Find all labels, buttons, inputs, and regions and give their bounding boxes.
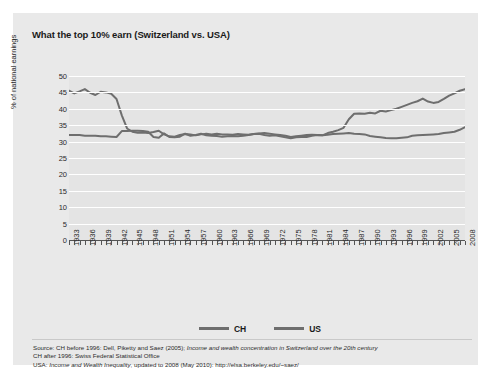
x-tick-mark bbox=[212, 241, 213, 245]
y-tick-label: 25 bbox=[43, 154, 67, 163]
legend-item-ch: CH bbox=[199, 319, 246, 337]
x-tick-mark bbox=[243, 241, 244, 245]
y-tick-label: 30 bbox=[43, 138, 67, 147]
x-tick-mark bbox=[106, 241, 107, 245]
x-tick-mark bbox=[180, 241, 181, 245]
x-tick-mark bbox=[465, 241, 466, 245]
x-tick-mark bbox=[201, 241, 202, 245]
x-tick-mark bbox=[259, 241, 260, 245]
x-tick-mark bbox=[317, 241, 318, 245]
gridline bbox=[69, 109, 465, 110]
x-tick-mark bbox=[381, 241, 382, 245]
chart-card: What the top 10% earn (Switzerland vs. U… bbox=[13, 13, 478, 365]
gridline bbox=[69, 174, 465, 175]
x-tick-mark bbox=[69, 241, 70, 245]
x-tick-mark bbox=[249, 241, 250, 245]
x-tick-mark bbox=[275, 241, 276, 245]
source-line-1-plain: Source: CH before 1996: Dell, Piketty an… bbox=[33, 344, 187, 351]
x-tick-mark bbox=[349, 241, 350, 245]
x-tick-mark bbox=[423, 241, 424, 245]
x-tick-mark bbox=[190, 241, 191, 245]
x-tick-mark bbox=[396, 241, 397, 245]
y-tick-label: 0 bbox=[43, 236, 67, 245]
gridline bbox=[69, 142, 465, 143]
source-notes: Source: CH before 1996: Dell, Piketty an… bbox=[33, 344, 483, 369]
x-tick-mark bbox=[264, 241, 265, 245]
gridline bbox=[69, 224, 465, 225]
x-tick-mark bbox=[370, 241, 371, 245]
gridline bbox=[69, 191, 465, 192]
x-tick-mark bbox=[217, 241, 218, 245]
x-tick-mark bbox=[402, 241, 403, 245]
x-tick-mark bbox=[127, 241, 128, 245]
y-tick-label: 45 bbox=[43, 88, 67, 97]
source-line-1-italic: Income and wealth concentration in Switz… bbox=[187, 344, 378, 351]
x-tick-mark bbox=[148, 241, 149, 245]
y-tick-label: 15 bbox=[43, 187, 67, 196]
x-tick-mark bbox=[354, 241, 355, 245]
x-tick-mark bbox=[291, 241, 292, 245]
x-tick-mark bbox=[270, 241, 271, 245]
x-tick-mark bbox=[175, 241, 176, 245]
page-title: What the top 10% earn (Switzerland vs. U… bbox=[32, 29, 230, 40]
x-tick-mark bbox=[132, 241, 133, 245]
source-line-3-plain: USA: bbox=[33, 361, 49, 368]
x-tick-mark bbox=[111, 241, 112, 245]
x-tick-mark bbox=[375, 241, 376, 245]
legend-item-us: US bbox=[274, 319, 321, 337]
x-tick-mark bbox=[206, 241, 207, 245]
x-tick-mark bbox=[117, 241, 118, 245]
x-axis-tick-labels: 1933193619391942194519481951195419571960… bbox=[13, 246, 494, 288]
x-tick-mark bbox=[122, 241, 123, 245]
x-tick-mark bbox=[80, 241, 81, 245]
x-tick-mark bbox=[439, 241, 440, 245]
x-tick-mark bbox=[285, 241, 286, 245]
legend-swatch-ch bbox=[199, 327, 229, 330]
legend-label-ch: CH bbox=[234, 324, 246, 334]
y-axis-tick-labels: 50454035302520151050 bbox=[43, 71, 67, 245]
x-tick-mark bbox=[449, 241, 450, 245]
x-tick-mark bbox=[391, 241, 392, 245]
x-tick-mark bbox=[412, 241, 413, 245]
chart-legend: CHUS bbox=[13, 318, 494, 337]
y-tick-label: 10 bbox=[43, 203, 67, 212]
x-tick-mark bbox=[280, 241, 281, 245]
gridline bbox=[69, 158, 465, 159]
gridline bbox=[69, 207, 465, 208]
x-tick-mark bbox=[460, 241, 461, 245]
x-tick-mark bbox=[85, 241, 86, 245]
legend-label-us: US bbox=[309, 324, 321, 334]
gridline bbox=[69, 92, 465, 93]
y-tick-label: 35 bbox=[43, 121, 67, 130]
source-line-3: USA: Income and Wealth Inequality, updat… bbox=[33, 361, 483, 369]
x-tick-mark bbox=[386, 241, 387, 245]
x-tick-mark bbox=[143, 241, 144, 245]
x-tick-mark bbox=[407, 241, 408, 245]
legend-swatch-us bbox=[274, 327, 304, 330]
x-tick-mark bbox=[322, 241, 323, 245]
gridline bbox=[69, 125, 465, 126]
x-tick-mark bbox=[169, 241, 170, 245]
x-tick-mark bbox=[254, 241, 255, 245]
x-tick-mark bbox=[312, 241, 313, 245]
plot-area bbox=[69, 76, 465, 240]
x-tick-mark bbox=[328, 241, 329, 245]
x-tick-mark bbox=[185, 241, 186, 245]
y-tick-label: 50 bbox=[43, 72, 67, 81]
x-tick-mark bbox=[222, 241, 223, 245]
x-tick-mark bbox=[153, 241, 154, 245]
x-tick-mark bbox=[227, 241, 228, 245]
x-tick-mark bbox=[444, 241, 445, 245]
x-tick-mark bbox=[90, 241, 91, 245]
x-tick-mark bbox=[164, 241, 165, 245]
x-tick-mark bbox=[365, 241, 366, 245]
y-tick-label: 40 bbox=[43, 105, 67, 114]
source-line-1: Source: CH before 1996: Dell, Piketty an… bbox=[33, 344, 483, 352]
x-tick-mark bbox=[138, 241, 139, 245]
x-tick-mark bbox=[344, 241, 345, 245]
x-tick-label: 2008 bbox=[468, 229, 477, 246]
x-tick-mark bbox=[296, 241, 297, 245]
gridline bbox=[69, 76, 465, 77]
x-tick-mark bbox=[74, 241, 75, 245]
x-tick-mark bbox=[233, 241, 234, 245]
